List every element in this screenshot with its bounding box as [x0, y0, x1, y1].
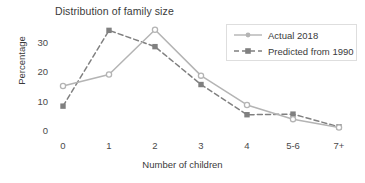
data-point-marker — [198, 82, 203, 87]
legend-label-predicted-from-1990: Predicted from 1990 — [268, 46, 354, 57]
chart-legend: Actual 2018 Predicted from 1990 — [226, 24, 357, 61]
data-point-marker — [152, 44, 157, 49]
legend-item-predicted-from-1990: Predicted from 1990 — [233, 43, 354, 59]
data-point-marker — [336, 125, 341, 130]
data-point-marker — [106, 72, 111, 77]
data-point-marker — [244, 102, 249, 107]
data-point-marker — [244, 112, 249, 117]
data-point-marker — [198, 73, 203, 78]
data-point-marker — [106, 28, 111, 33]
legend-item-actual-2018: Actual 2018 — [233, 27, 318, 43]
x-axis-label: Number of children — [0, 159, 365, 170]
chart-figure: Distribution of family size Percentage 3… — [0, 0, 365, 183]
data-point-marker — [60, 103, 65, 108]
data-point-marker — [152, 27, 157, 32]
data-point-marker — [290, 117, 295, 122]
legend-swatch-predicted-from-1990 — [233, 45, 263, 57]
legend-label-actual-2018: Actual 2018 — [268, 30, 318, 41]
data-point-marker — [60, 83, 65, 88]
legend-swatch-actual-2018 — [233, 29, 263, 41]
